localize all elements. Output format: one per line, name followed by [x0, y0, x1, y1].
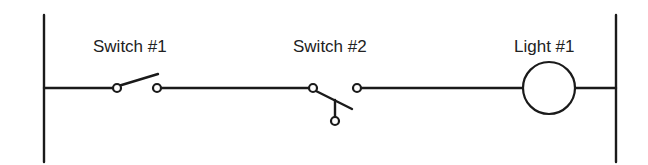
switch-1-blade	[120, 74, 158, 86]
switch-2-contact-left	[309, 84, 317, 92]
switch-1-label: Switch #1	[93, 38, 167, 55]
light-1-label: Light #1	[514, 38, 575, 55]
circuit-drawing	[0, 0, 648, 165]
ladder-diagram: Switch #1 Switch #2 Light #1	[0, 0, 648, 165]
switch-2-label: Switch #2	[293, 38, 367, 55]
switch-2-symbol	[309, 84, 361, 125]
switch-2-contact-bottom	[331, 117, 339, 125]
switch-1-contact-right	[153, 84, 161, 92]
light-1-symbol	[523, 62, 575, 114]
switch-1-symbol	[113, 74, 161, 92]
switch-1-contact-left	[113, 84, 121, 92]
switch-2-contact-right	[353, 84, 361, 92]
